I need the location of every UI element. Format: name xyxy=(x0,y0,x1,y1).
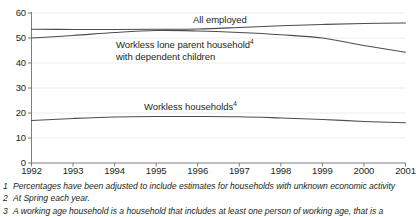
x-axis-tick-label: 1997 xyxy=(219,165,259,176)
series-label-workless-households-superscript: 4 xyxy=(233,100,237,107)
series-label-all-employed: All employed xyxy=(193,14,247,26)
x-axis-tick-label: 1995 xyxy=(136,165,176,176)
y-axis-tick-label: 50 xyxy=(4,33,26,43)
series-label-workless-households-text: Workless households xyxy=(144,101,233,112)
footnote-row: 1Percentages have been adjusted to inclu… xyxy=(0,180,419,192)
series-label-lone-parent-line1: Workless lone parent household xyxy=(116,39,250,50)
footnote-number: 1 xyxy=(3,180,8,192)
series-label-lone-parent-superscript: 4 xyxy=(250,38,254,45)
y-axis-tick-label: 20 xyxy=(4,108,26,118)
footnote-text: Percentages have been adjusted to includ… xyxy=(13,181,395,191)
series-label-all-employed-text: All employed xyxy=(193,14,247,25)
y-axis-tick-label: 10 xyxy=(4,133,26,143)
x-axis-tick-labels: 1992199319941995199619971998199920002001 xyxy=(0,165,419,179)
x-axis-tick-label: 2001 xyxy=(386,165,419,176)
footnotes-block: 1Percentages have been adjusted to inclu… xyxy=(0,180,419,217)
x-axis-tick-label: 1992 xyxy=(12,165,52,176)
footnote-row: 2At Spring each year. xyxy=(0,192,419,204)
series-line xyxy=(32,116,406,122)
series-label-workless-households: Workless households4 xyxy=(144,101,237,113)
plot-area: 0102030405060 19921993199419951996199719… xyxy=(0,0,419,180)
x-axis-tick-label: 1999 xyxy=(302,165,342,176)
y-axis-tick-labels: 0102030405060 xyxy=(0,0,26,180)
series-label-lone-parent-line2: with dependent children xyxy=(116,51,215,62)
y-axis-tick-label: 30 xyxy=(4,83,26,93)
chart-figure: 0102030405060 19921993199419951996199719… xyxy=(0,0,419,217)
x-axis-tick-label: 2000 xyxy=(344,165,384,176)
x-axis-tick-label: 1993 xyxy=(53,165,93,176)
chart-canvas xyxy=(0,0,419,180)
x-axis-tick-label: 1994 xyxy=(95,165,135,176)
footnote-number: 2 xyxy=(3,192,8,204)
footnote-text: At Spring each year. xyxy=(13,193,90,203)
footnote-row: 3A working age household is a household … xyxy=(0,205,419,217)
y-axis-tick-label: 40 xyxy=(4,58,26,68)
y-axis-tick-label: 60 xyxy=(4,8,26,18)
x-axis-tick-label: 1998 xyxy=(261,165,301,176)
footnote-text: A working age household is a household t… xyxy=(13,206,383,216)
x-axis-tick-label: 1996 xyxy=(178,165,218,176)
y-axis-ticks xyxy=(28,13,32,163)
footnote-number: 3 xyxy=(3,205,8,217)
series-label-lone-parent: Workless lone parent household4 with dep… xyxy=(116,39,254,62)
